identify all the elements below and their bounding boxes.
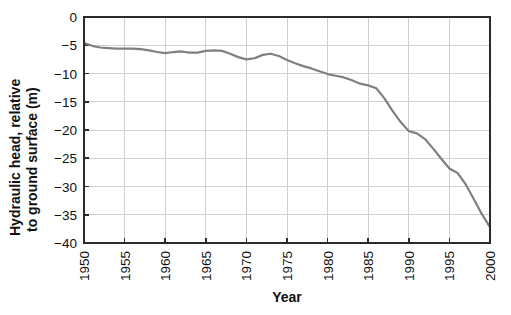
x-tick-label: 1955 [118, 251, 133, 281]
y-tick-label: −20 [54, 123, 77, 138]
y-tick-label: −5 [62, 38, 77, 53]
x-tick-label: 1980 [321, 251, 336, 281]
y-axis-title-line1: Hydraulic head, relative [7, 79, 23, 236]
line-chart: Hydraulic head, relative to ground surfa… [0, 0, 511, 315]
y-axis-title-line2: to ground surface (m) [24, 87, 40, 232]
x-tick-label: 1960 [158, 251, 173, 281]
y-tick-label: −10 [54, 67, 77, 82]
y-tick-label: −15 [54, 95, 77, 110]
y-axis-title: Hydraulic head, relative to ground surfa… [7, 79, 40, 236]
x-tick-label: 1970 [239, 251, 254, 281]
x-tick-label: 1985 [361, 251, 376, 281]
y-tick-label: −25 [54, 151, 77, 166]
x-tick-label: 1995 [442, 251, 457, 281]
y-tick-labels: 0−5−10−15−20−25−30−35−40 [54, 10, 77, 251]
y-tick-label: −35 [54, 208, 77, 223]
x-tick-labels: 1950195519601965197019751980198519901995… [77, 251, 498, 281]
y-tick-label: 0 [69, 10, 77, 25]
x-tick-label: 1990 [402, 251, 417, 281]
gridlines [84, 17, 490, 243]
x-tick-label: 1950 [77, 251, 92, 281]
chart-figure: Hydraulic head, relative to ground surfa… [0, 0, 511, 315]
y-tick-label: −40 [54, 236, 77, 251]
x-axis-title: Year [272, 289, 302, 305]
x-tick-label: 1965 [199, 251, 214, 281]
y-tick-label: −30 [54, 180, 77, 195]
x-tick-label: 2000 [483, 251, 498, 281]
x-tick-label: 1975 [280, 251, 295, 281]
